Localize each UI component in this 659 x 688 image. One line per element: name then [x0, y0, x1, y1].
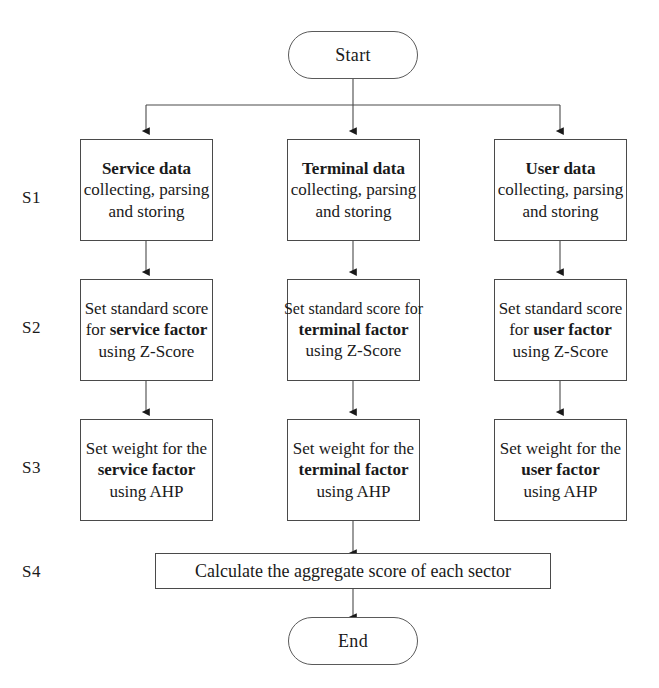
node-s1-user-line3: and storing	[522, 201, 598, 222]
node-s3-service-line2: service factor	[98, 459, 196, 480]
connector-start-to-bus	[146, 79, 560, 105]
stage-label-s1: S1	[22, 188, 41, 208]
node-s3-service[interactable]: Set weight for the service factor using …	[80, 419, 213, 521]
node-s2-service-line3: using Z-Score	[99, 341, 195, 362]
node-s1-user[interactable]: User data collecting, parsing and storin…	[494, 139, 627, 241]
node-s1-user-line2: collecting, parsing	[498, 179, 624, 200]
node-s2-terminal[interactable]: Set standard score for terminal factor u…	[287, 279, 420, 381]
node-s3-service-line3: using AHP	[109, 481, 183, 502]
flowchart-canvas: Start End S1 S2 S3 S4 Service data colle…	[0, 0, 659, 688]
node-s2-terminal-line2: terminal factor	[299, 319, 409, 340]
node-s2-service-line2: for service factor	[86, 319, 208, 340]
end-terminator-label: End	[338, 631, 368, 652]
node-s1-service-line2: collecting, parsing	[84, 179, 210, 200]
node-s2-user-line2: for user factor	[509, 319, 612, 340]
node-s1-service-line1: Service data	[102, 158, 191, 179]
start-terminator-label: Start	[335, 45, 371, 66]
node-s3-user-line3: using AHP	[523, 481, 597, 502]
node-s2-service-line1: Set standard score	[85, 298, 209, 319]
node-s1-terminal-line2: collecting, parsing	[291, 179, 417, 200]
node-s3-terminal-line1: Set weight for the	[293, 438, 414, 459]
stage-label-s4: S4	[22, 562, 41, 582]
node-s1-user-line1: User data	[525, 158, 595, 179]
node-s2-user-line3: using Z-Score	[513, 341, 609, 362]
node-s2-user[interactable]: Set standard score for user factor using…	[494, 279, 627, 381]
node-s2-service[interactable]: Set standard score for service factor us…	[80, 279, 213, 381]
start-terminator[interactable]: Start	[288, 31, 418, 79]
stage-label-s3: S3	[22, 458, 41, 478]
node-s3-terminal[interactable]: Set weight for the terminal factor using…	[287, 419, 420, 521]
node-s1-terminal[interactable]: Terminal data collecting, parsing and st…	[287, 139, 420, 241]
node-s3-terminal-line3: using AHP	[316, 481, 390, 502]
node-s3-user-line2: user factor	[521, 459, 600, 480]
node-s2-terminal-line1: Set standard score for	[284, 299, 423, 319]
node-s1-service-line3: and storing	[108, 201, 184, 222]
node-s1-service[interactable]: Service data collecting, parsing and sto…	[80, 139, 213, 241]
node-s4-aggregate[interactable]: Calculate the aggregate score of each se…	[155, 553, 551, 589]
node-s3-user-line1: Set weight for the	[500, 438, 621, 459]
node-s3-user[interactable]: Set weight for the user factor using AHP	[494, 419, 627, 521]
node-s1-terminal-line3: and storing	[315, 201, 391, 222]
end-terminator[interactable]: End	[288, 617, 418, 665]
node-s3-terminal-line2: terminal factor	[299, 459, 409, 480]
node-s2-user-line1: Set standard score	[499, 298, 623, 319]
stage-label-s2: S2	[22, 318, 41, 338]
node-s3-service-line1: Set weight for the	[86, 438, 207, 459]
node-s1-terminal-line1: Terminal data	[302, 158, 405, 179]
node-s2-terminal-line3: using Z-Score	[306, 340, 402, 361]
node-s4-aggregate-line1: Calculate the aggregate score of each se…	[195, 560, 511, 583]
